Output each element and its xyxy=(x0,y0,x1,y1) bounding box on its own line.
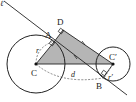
geometry-diagram: ℓ A D C C′ B r r′ d xyxy=(0,0,136,102)
label-C-prime: C′ xyxy=(109,52,117,62)
center-point-C-prime xyxy=(111,62,114,65)
label-line-l: ℓ xyxy=(0,0,4,8)
label-r: r xyxy=(36,46,40,55)
label-r-prime: r′ xyxy=(108,73,113,82)
label-D: D xyxy=(57,17,64,27)
label-B: B xyxy=(96,81,102,91)
label-A: A xyxy=(45,30,52,40)
dashed-arc-d xyxy=(36,64,103,80)
center-point-C xyxy=(34,62,37,65)
label-C: C xyxy=(31,68,37,78)
label-d: d xyxy=(71,70,76,79)
right-angle-mark-B xyxy=(101,70,107,76)
